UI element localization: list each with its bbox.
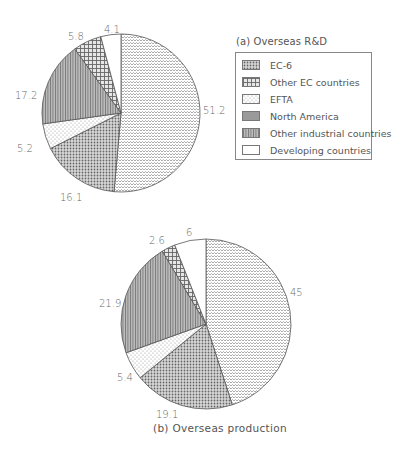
legend: EC-6 Other EC countries EFTA North Ameri… — [235, 52, 372, 160]
label-a-efta: 5.2 — [17, 143, 33, 154]
label-b-north-america: 21.9 — [99, 298, 121, 309]
legend-label: EFTA — [270, 94, 293, 105]
legend-title: (a) Overseas R&D — [236, 36, 327, 47]
legend-item-other-ec: Other EC countries — [236, 75, 360, 89]
legend-item-developing: Developing countries — [236, 143, 371, 157]
swatch-vertical-stripes-icon — [242, 111, 260, 121]
swatch-dense-dots-icon — [242, 77, 260, 87]
label-b-other-ec: 19.1 — [156, 409, 178, 420]
label-a-other-industrial: 5.8 — [68, 31, 84, 42]
pie-slice-ec6 — [114, 34, 200, 192]
pie-chart-overseas-production — [121, 239, 291, 409]
label-a-developing: 4.1 — [104, 24, 120, 35]
legend-item-ec6: EC-6 — [236, 58, 292, 72]
legend-item-efta: EFTA — [236, 92, 293, 106]
legend-label: Other industrial countries — [270, 128, 392, 139]
pie-chart-overseas-rd — [42, 34, 200, 192]
label-b-developing: 6 — [186, 227, 192, 238]
swatch-blank-icon — [242, 145, 260, 155]
legend-label: Other EC countries — [270, 77, 360, 88]
label-b-other-industrial: 2.6 — [149, 235, 165, 246]
label-a-other-ec: 16.1 — [60, 192, 82, 203]
legend-label: North America — [270, 111, 339, 122]
legend-label: Developing countries — [270, 145, 371, 156]
label-a-ec6: 51.2 — [203, 105, 225, 116]
label-a-north-america: 17.2 — [15, 90, 37, 101]
swatch-chevron-icon — [242, 60, 260, 70]
legend-item-other-industrial: Other industrial countries — [236, 126, 392, 140]
swatch-crosshatch-icon — [242, 128, 260, 138]
label-b-ec6: 45 — [290, 287, 303, 298]
caption-overseas-production: (b) Overseas production — [153, 422, 287, 434]
label-b-efta: 5.4 — [117, 372, 133, 383]
swatch-light-dots-icon — [242, 94, 260, 104]
legend-label: EC-6 — [270, 60, 292, 71]
legend-item-north-america: North America — [236, 109, 339, 123]
